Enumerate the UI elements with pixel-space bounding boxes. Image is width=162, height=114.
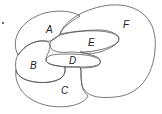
label-d: D bbox=[69, 55, 76, 66]
region-b bbox=[16, 41, 66, 83]
bullet-dot bbox=[2, 22, 4, 24]
region-f bbox=[60, 5, 155, 98]
label-c: C bbox=[61, 85, 69, 96]
region-c bbox=[16, 67, 88, 107]
label-f: F bbox=[123, 19, 130, 30]
region-map-diagram: A B C D E F bbox=[0, 0, 162, 114]
label-b: B bbox=[30, 60, 37, 71]
label-a: A bbox=[45, 24, 53, 35]
label-e: E bbox=[88, 37, 95, 48]
